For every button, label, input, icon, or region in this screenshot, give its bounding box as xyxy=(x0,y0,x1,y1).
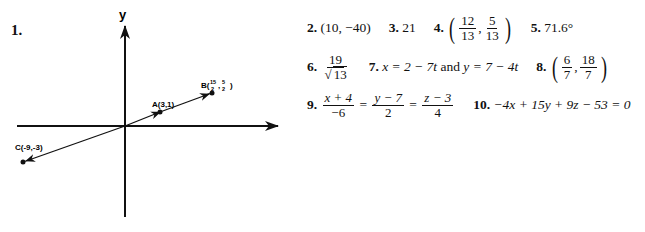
answer-7-part2: y = 7 − 4t xyxy=(463,59,518,75)
svg-text:2: 2 xyxy=(211,86,214,92)
answer-7-part1: x = 2 − 7t xyxy=(382,59,437,75)
answer-4-y: 513 xyxy=(484,14,501,43)
y-axis-label: y xyxy=(119,7,127,22)
point-C-label: C(-9,-3) xyxy=(15,143,43,152)
point-C xyxy=(21,160,26,165)
answer-row-3: 9. x + 4−6 = y − 72 = z − 34 10. −4x + 1… xyxy=(307,88,630,122)
vector-diagram: y x A(3,1) B( 15 2 , 5 2 ) C(-9,-3) xyxy=(0,0,280,232)
answer-6-value: 19 √13 xyxy=(323,53,349,82)
problem-1-figure: 1. y x A(3,1) B( 15 2 , xyxy=(0,0,280,232)
point-A xyxy=(158,110,163,115)
answer-3-value: 21 xyxy=(402,20,416,36)
answer-6-number: 6. xyxy=(307,59,317,75)
answer-row-1: 2. (10, −40) 3. 21 4. ( 1213, 513 ) 5. 7… xyxy=(307,13,573,43)
answer-4-number: 4. xyxy=(434,20,444,36)
answer-4-x: 1213 xyxy=(459,14,476,43)
svg-text:2: 2 xyxy=(222,86,225,92)
answer-2-value: (10, −40) xyxy=(321,20,371,36)
answer-9-number: 9. xyxy=(307,97,317,113)
svg-text:5: 5 xyxy=(222,79,225,85)
point-B-label-prefix: B( xyxy=(201,81,210,90)
answer-7-conj: and xyxy=(440,59,460,75)
answer-10-number: 10. xyxy=(473,97,490,113)
answer-8-number: 8. xyxy=(536,59,546,75)
svg-text:15: 15 xyxy=(210,79,216,85)
answer-5-number: 5. xyxy=(531,20,541,36)
point-A-label: A(3,1) xyxy=(152,100,175,109)
answer-3-number: 3. xyxy=(389,20,399,36)
answer-7-number: 7. xyxy=(369,59,379,75)
svg-text:): ) xyxy=(230,81,233,90)
answer-row-2: 6. 19 √13 7. x = 2 − 7t and y = 7 − 4t 8… xyxy=(307,50,609,84)
svg-text:,: , xyxy=(218,81,220,90)
answer-8-y: 187 xyxy=(580,53,597,82)
answer-9-frac-1: x + 4−6 xyxy=(323,91,355,120)
answer-5-value: 71.6° xyxy=(544,20,573,36)
answer-8-x: 67 xyxy=(562,53,573,82)
answer-9-frac-2: y − 72 xyxy=(372,91,404,120)
answer-2-number: 2. xyxy=(307,20,317,36)
vector-OA xyxy=(125,112,160,126)
answer-10-value: −4x + 15y + 9z − 53 = 0 xyxy=(493,97,630,113)
answer-9-frac-3: z − 34 xyxy=(422,91,453,120)
